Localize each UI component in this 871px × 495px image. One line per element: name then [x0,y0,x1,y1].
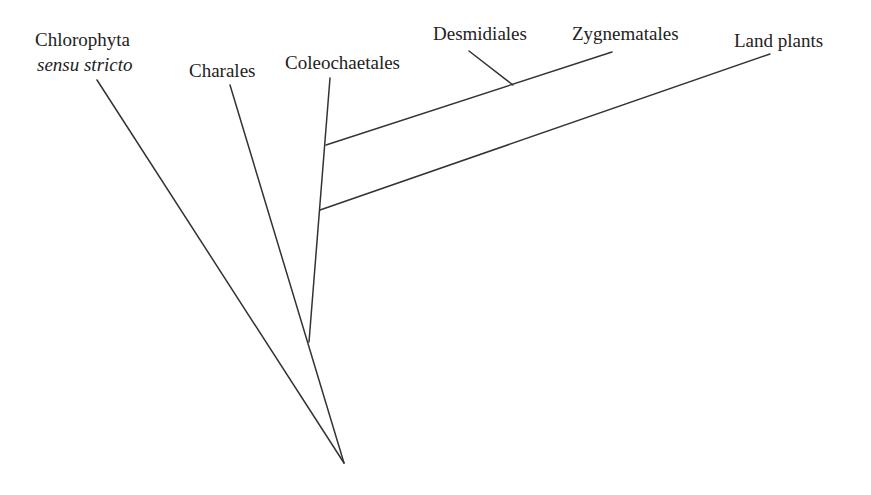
label-chlorophyta-qualifier: sensu stricto [37,54,133,76]
branch-land-plants [320,54,770,210]
label-zygnematales: Zygnematales [572,23,679,45]
branch-chlorophyta [97,80,344,463]
label-charales: Charales [189,60,255,82]
label-coleochaetales: Coleochaetales [285,52,400,74]
label-chlorophyta: Chlorophyta [35,29,130,51]
label-land-plants: Land plants [734,30,823,52]
branch-desmidiales [469,51,513,85]
branch-charales [230,85,344,463]
label-desmidiales: Desmidiales [433,23,527,45]
